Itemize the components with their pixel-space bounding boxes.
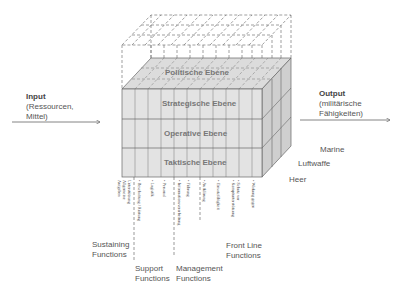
level-strategische: Strategische Ebene <box>162 99 236 109</box>
support-item: • Personal <box>162 180 167 197</box>
output-title: Output <box>319 89 345 98</box>
frontline-item: • Schutz vor <box>236 180 241 201</box>
sustaining-functions-label: Sustaining Functions <box>92 240 129 260</box>
level-operative: Operative Ebene <box>164 129 227 139</box>
frontline-item: • Wirkung gegen <box>251 180 256 208</box>
input-title: Input <box>26 92 46 101</box>
level-taktische: Taktische Ebene <box>164 158 227 168</box>
branch-marine: Marine <box>320 145 344 155</box>
management-item: • Führung <box>186 180 191 197</box>
support-item: • Logistik <box>150 180 155 196</box>
output-line2: Fähigkeiten) <box>319 109 363 118</box>
branch-luftwaffe: Luftwaffe <box>298 159 330 169</box>
management-item: • Informationsverarbeitung <box>177 180 182 225</box>
management-item: • Aufklärung <box>202 180 207 202</box>
branch-heer: Heer <box>289 175 306 185</box>
support-item: • Beschaffung / Rüstung <box>137 180 142 221</box>
input-line1: (Ressourcen, <box>26 102 74 111</box>
input-line2: Mittel) <box>26 112 48 121</box>
output-line1: (militärische <box>319 99 362 108</box>
output-label: Output (militärische Fähigkeiten) <box>319 89 363 119</box>
management-functions-label: Management Functions <box>176 264 223 284</box>
input-label: Input (Ressourcen, Mittel) <box>26 92 74 122</box>
frontline-item: • Einsatzfähigkeit <box>216 180 221 210</box>
capability-cube-diagram: Politische Ebene Strategische Ebene Oper… <box>0 0 404 291</box>
frontline-functions-label: Front Line Functions <box>226 241 262 261</box>
sustaining-item: Unterstützung <box>127 180 132 204</box>
support-functions-label: Support Functions <box>135 264 170 284</box>
level-politische: Politische Ebene <box>165 68 229 78</box>
